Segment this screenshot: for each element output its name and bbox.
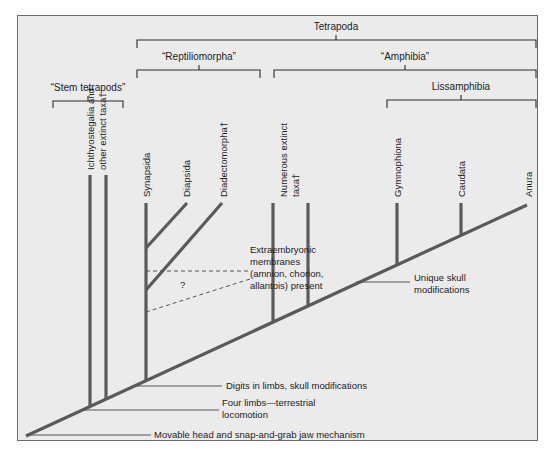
group-label-tetrapoda: Tetrapoda — [314, 21, 359, 32]
svg-text:locomotion: locomotion — [222, 409, 268, 420]
dashed-uncertain-line — [146, 279, 250, 312]
svg-text:(amnion, chorion,: (amnion, chorion, — [250, 268, 323, 279]
taxon-label-diapsida: Diapsida — [181, 159, 192, 197]
taxon-label-anura: Anura — [523, 171, 534, 197]
svg-text:Extraembryonic: Extraembryonic — [250, 244, 316, 255]
taxon-label-ichthyostegalia-1: Ichthyostegalia and — [85, 88, 96, 170]
group-label-reptiliomorpha: “Reptiliomorpha” — [162, 51, 236, 62]
taxon-label-numerous-2: taxa† — [290, 174, 301, 197]
svg-text:Four limbs—terrestrial: Four limbs—terrestrial — [222, 397, 315, 408]
svg-text:Unique skull: Unique skull — [414, 272, 466, 283]
branch-diadectomorpha — [146, 203, 222, 290]
question-mark: ? — [180, 279, 185, 290]
group-label-lissamphibia: Lissamphibia — [432, 81, 491, 92]
branch-diapsida — [146, 203, 187, 248]
bracket-tetrapoda: Tetrapoda — [137, 21, 536, 48]
taxon-label-gymnophiona: Gymnophiona — [392, 137, 403, 197]
svg-text:Movable head and snap-and-grab: Movable head and snap-and-grab jaw mecha… — [154, 429, 365, 440]
taxon-label-synapsida: Synapsida — [141, 152, 152, 197]
taxon-label-diadectomorpha: Diadectomorpha† — [218, 122, 229, 197]
taxon-label-ichthyostegalia-2: other extinct taxa† — [97, 92, 108, 170]
svg-text:membranes: membranes — [250, 256, 300, 267]
annotation-extraembryonic: Extraembryonic membranes (amnion, chorio… — [250, 244, 323, 291]
annotation-digits: Digits in limbs, skull modifications — [136, 380, 367, 391]
annotation-four-limbs: Four limbs—terrestrial locomotion — [82, 397, 315, 420]
cladogram: Tetrapoda “Reptiliomorpha” “Amphibia” Li… — [0, 0, 555, 458]
bracket-reptiliomorpha: “Reptiliomorpha” — [137, 51, 260, 78]
bracket-amphibia: “Amphibia” — [274, 51, 536, 78]
svg-text:modifications: modifications — [414, 284, 470, 295]
group-label-amphibia: “Amphibia” — [381, 51, 429, 62]
bracket-lissamphibia: Lissamphibia — [387, 81, 536, 108]
annotation-movable-head: Movable head and snap-and-grab jaw mecha… — [28, 429, 365, 440]
svg-text:allantois) present: allantois) present — [250, 280, 323, 291]
svg-text:Digits in limbs, skull modific: Digits in limbs, skull modifications — [226, 380, 367, 391]
taxon-label-numerous-1: Numerous extinct — [278, 123, 289, 197]
taxon-label-caudata: Caudata — [456, 160, 467, 197]
